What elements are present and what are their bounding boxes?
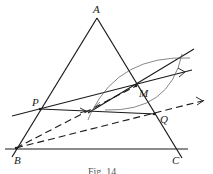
label-C: C xyxy=(172,154,180,166)
label-A: A xyxy=(92,3,100,15)
label-P: P xyxy=(31,96,39,108)
point-P xyxy=(39,108,41,110)
label-B: B xyxy=(14,154,21,166)
label-Q: Q xyxy=(160,113,168,125)
figure-caption: Fig. 14 xyxy=(88,166,116,174)
point-B xyxy=(15,147,17,149)
point-M xyxy=(135,85,137,87)
arc-upper xyxy=(92,58,190,111)
segment-PQ xyxy=(40,109,156,114)
line-bisector xyxy=(88,49,194,113)
side-AB xyxy=(12,18,97,157)
label-M: M xyxy=(138,87,149,99)
point-Q xyxy=(153,113,155,115)
geometry-diagram: A B C P M Q Fig. 14 xyxy=(0,0,213,174)
